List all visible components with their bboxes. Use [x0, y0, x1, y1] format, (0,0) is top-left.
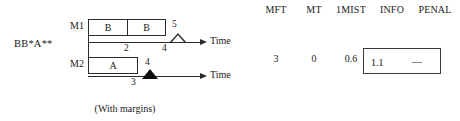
- task-bar-m2-a1: A: [88, 57, 138, 74]
- timeline-axis-m1: [88, 42, 202, 43]
- metrics-header-1mist: 1MIST: [331, 5, 371, 15]
- tick-label-m2-4: 4: [145, 57, 150, 67]
- tick-label-m1-2: 2: [124, 43, 129, 53]
- axis-label-m1: Time: [210, 35, 231, 46]
- metrics-value-info: 1.1: [371, 57, 384, 68]
- filled-triangle-marker-icon: [142, 69, 158, 79]
- metrics-value-mt: 0: [297, 54, 331, 64]
- task-bar-m1-b1: B: [88, 19, 128, 36]
- open-triangle-marker-icon: [170, 33, 186, 42]
- expression-label: BB*A**: [14, 38, 53, 49]
- schedule-diagram: BB*A** M1 B B Time 2 4 5 M2 A Time 3 4 (…: [0, 0, 250, 121]
- metrics-header-mt: MT: [297, 5, 331, 15]
- axis-label-m2: Time: [210, 69, 231, 80]
- metrics-value-penal: —: [412, 56, 422, 67]
- metrics-header-mft: MFT: [255, 5, 297, 15]
- axis-arrow-icon-m2: [200, 73, 207, 79]
- metrics-header-penal: PENAL: [413, 5, 457, 15]
- task-bar-m1-b2: B: [127, 19, 166, 36]
- tick-label-m1-4: 4: [162, 43, 167, 53]
- metrics-header-info: INFO: [371, 5, 413, 15]
- machine-label-m2: M2: [70, 58, 84, 69]
- tick-label-m2-3: 3: [131, 77, 136, 87]
- figure-caption: (With margins): [0, 103, 250, 114]
- highlighted-metrics-box: 1.1 —: [363, 48, 441, 74]
- metrics-table: MFT MT 1MIST INFO PENAL 3 0 0.6 1.1 —: [250, 0, 460, 121]
- axis-arrow-icon-m1: [200, 39, 207, 45]
- tick-label-m1-5: 5: [172, 19, 177, 29]
- machine-label-m1: M1: [70, 20, 84, 31]
- connector-line: [88, 36, 89, 58]
- metrics-header-row: MFT MT 1MIST INFO PENAL: [250, 5, 460, 15]
- metrics-value-mft: 3: [255, 54, 297, 64]
